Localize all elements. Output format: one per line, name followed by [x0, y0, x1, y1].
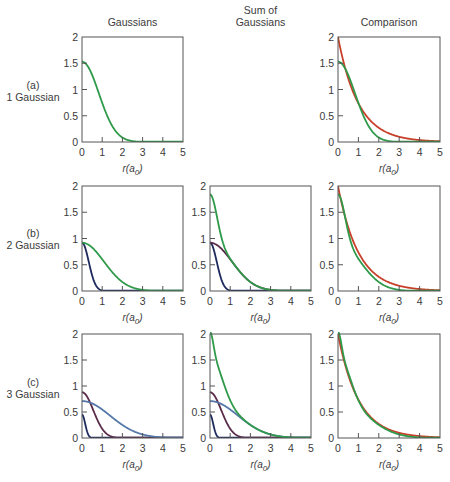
x-tick-label: 3: [140, 442, 146, 454]
y-tick-label: 1: [72, 380, 78, 392]
x-tick-label: 1: [99, 146, 105, 158]
x-tick-label: 2: [247, 442, 253, 454]
y-tick-label: 0.5: [191, 259, 206, 271]
x-tick-label: 0: [79, 295, 85, 307]
y-tick-label: 0.5: [63, 406, 78, 418]
x-tick-label: 0: [207, 442, 213, 454]
row-text: 1 Gaussian: [6, 91, 59, 103]
row-tag: (a): [0, 79, 66, 91]
y-tick-label: 0: [328, 136, 334, 148]
plot-frame: [338, 186, 440, 291]
x-axis-label: r(a0): [122, 459, 142, 473]
curve-slater-exp-: [338, 186, 440, 290]
y-tick-label: 2: [200, 328, 206, 340]
x-tick-label: 4: [160, 146, 166, 158]
curve-gaussian-narrow: [82, 243, 183, 291]
x-tick-label: 1: [227, 295, 233, 307]
x-tick-label: 0: [335, 146, 341, 158]
x-tick-label: 5: [180, 146, 186, 158]
x-tick-label: 0: [335, 442, 341, 454]
row-tag: (b): [0, 227, 66, 239]
x-tick-label: 2: [119, 442, 125, 454]
y-tick-label: 1: [328, 380, 334, 392]
y-tick-label: 1: [328, 84, 334, 96]
x-tick-label: 5: [437, 442, 443, 454]
x-tick-label: 3: [396, 146, 402, 158]
curve-sum: [210, 194, 311, 290]
x-tick-label: 5: [180, 295, 186, 307]
plot-c-gaussians: 01234500.511.52r(a0): [82, 334, 183, 438]
x-tick-label: 0: [207, 295, 213, 307]
y-tick-label: 1: [72, 84, 78, 96]
x-tick-label: 3: [396, 295, 402, 307]
x-axis-label: r(a0): [122, 163, 142, 177]
x-tick-label: 1: [355, 442, 361, 454]
x-axis-label: r(a0): [379, 312, 399, 326]
x-tick-label: 3: [268, 442, 274, 454]
y-tick-label: 0.5: [319, 406, 334, 418]
y-tick-label: 0: [328, 285, 334, 297]
y-tick-label: 1.5: [191, 354, 206, 366]
x-tick-label: 1: [355, 295, 361, 307]
x-tick-label: 1: [227, 442, 233, 454]
y-tick-label: 0: [328, 432, 334, 444]
curve-sum-of-gaussians: [338, 62, 440, 142]
x-tick-label: 4: [288, 295, 294, 307]
x-tick-label: 3: [140, 295, 146, 307]
y-tick-label: 0.5: [63, 110, 78, 122]
x-tick-label: 0: [79, 146, 85, 158]
y-tick-label: 1.5: [63, 206, 78, 218]
y-tick-label: 2: [328, 328, 334, 340]
y-tick-label: 1: [328, 233, 334, 245]
y-tick-label: 0.5: [63, 259, 78, 271]
y-tick-label: 1.5: [63, 57, 78, 69]
y-tick-label: 1: [72, 233, 78, 245]
curve-gaussian-wide: [82, 243, 183, 291]
x-tick-label: 4: [160, 295, 166, 307]
x-tick-label: 2: [376, 442, 382, 454]
plot-a-comparison: 01234500.511.52r(a0): [338, 37, 440, 142]
plot-frame: [82, 186, 183, 291]
curve-sum-of-gaussians: [338, 332, 440, 438]
y-tick-label: 0: [72, 432, 78, 444]
x-tick-label: 4: [417, 146, 423, 158]
x-tick-label: 0: [335, 295, 341, 307]
x-tick-label: 2: [119, 146, 125, 158]
x-axis-label: r(a0): [250, 312, 270, 326]
x-tick-label: 2: [376, 295, 382, 307]
x-tick-label: 2: [376, 146, 382, 158]
y-tick-label: 0: [200, 432, 206, 444]
x-tick-label: 4: [417, 295, 423, 307]
y-tick-label: 0: [72, 285, 78, 297]
y-tick-label: 0: [200, 285, 206, 297]
x-tick-label: 5: [437, 295, 443, 307]
x-tick-label: 5: [308, 442, 314, 454]
y-tick-label: 2: [72, 31, 78, 43]
y-tick-label: 0.5: [191, 406, 206, 418]
x-tick-label: 4: [288, 442, 294, 454]
x-tick-label: 5: [180, 442, 186, 454]
x-tick-label: 4: [417, 442, 423, 454]
x-tick-label: 2: [119, 295, 125, 307]
x-tick-label: 2: [247, 295, 253, 307]
plot-b-gaussians: 01234500.511.52r(a0): [82, 186, 183, 291]
x-tick-label: 1: [99, 295, 105, 307]
y-tick-label: 0.5: [319, 110, 334, 122]
plot-b-sum: 01234500.511.52r(a0): [210, 186, 311, 291]
curve-sum: [210, 332, 311, 438]
plot-a-gaussians: 01234500.511.52r(a0): [82, 37, 183, 142]
y-tick-label: 1: [200, 380, 206, 392]
plot-frame: [82, 334, 183, 438]
y-tick-label: 2: [200, 180, 206, 192]
x-tick-label: 1: [355, 146, 361, 158]
y-tick-label: 1.5: [319, 354, 334, 366]
row-label-c: (c) 3 Gaussian: [0, 376, 66, 400]
y-tick-label: 1: [200, 233, 206, 245]
y-tick-label: 1.5: [191, 206, 206, 218]
curve-gaussian-1: [82, 62, 183, 142]
row-tag: (c): [0, 376, 66, 388]
x-axis-label: r(a0): [379, 459, 399, 473]
x-axis-label: r(a0): [122, 312, 142, 326]
y-tick-label: 2: [72, 180, 78, 192]
plot-frame: [210, 186, 311, 291]
